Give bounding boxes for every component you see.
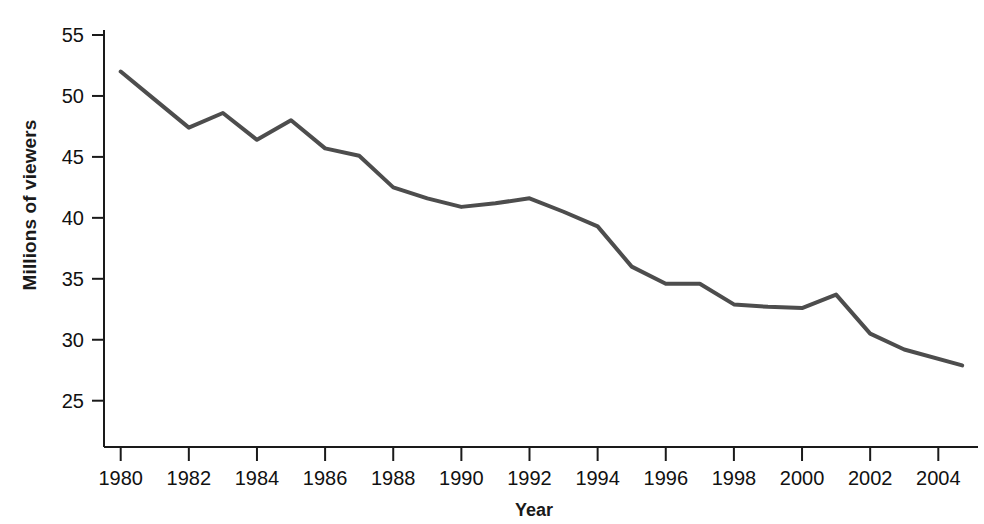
x-axis-title: Year <box>474 500 594 521</box>
data-series-line <box>121 72 962 366</box>
line-chart: Millions of viewers 25303540455055 19801… <box>0 0 984 524</box>
x-tick-label: 1980 <box>98 467 143 489</box>
y-tick-label: 55 <box>62 24 84 46</box>
x-tick-label: 2004 <box>916 467 961 489</box>
x-tick-label: 1992 <box>507 467 552 489</box>
x-tick-label: 1994 <box>575 467 620 489</box>
y-tick-label: 30 <box>62 329 84 351</box>
plot-area: 25303540455055 1980198219841986198819901… <box>0 0 984 524</box>
y-tick-label: 45 <box>62 146 84 168</box>
y-tick-label: 25 <box>62 390 84 412</box>
y-tick-label: 40 <box>62 207 84 229</box>
x-tick-label: 1998 <box>712 467 757 489</box>
x-tick-label: 1990 <box>439 467 484 489</box>
x-tick-label: 1996 <box>644 467 689 489</box>
x-tick-label: 2002 <box>848 467 893 489</box>
x-tick-label: 1984 <box>235 467 280 489</box>
x-tick-label: 1988 <box>371 467 416 489</box>
y-axis-ticks: 25303540455055 <box>62 24 104 412</box>
x-tick-label: 1986 <box>303 467 348 489</box>
x-tick-label: 2000 <box>780 467 825 489</box>
x-tick-label: 1982 <box>167 467 212 489</box>
y-tick-label: 35 <box>62 268 84 290</box>
x-axis-ticks: 1980198219841986198819901992199419961998… <box>98 447 960 489</box>
y-tick-label: 50 <box>62 85 84 107</box>
